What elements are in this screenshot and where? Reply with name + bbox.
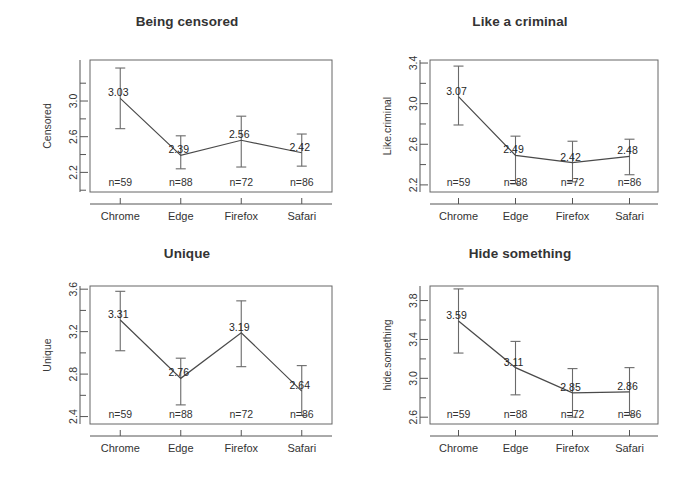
y-axis-label: Like.criminal: [381, 97, 393, 155]
series-line: [459, 321, 630, 393]
plot-box: [430, 286, 658, 424]
y-tick-label: 2.2: [67, 165, 79, 180]
sample-size-label: n=88: [169, 408, 193, 420]
figure-panel-grid: Being censored2.22.63.0ChromeEdgeFirefox…: [0, 0, 688, 486]
series-line: [120, 320, 302, 391]
sample-size-label: n=72: [561, 408, 585, 420]
x-tick-label-firefox: Firefox: [224, 442, 258, 454]
sample-size-label: n=88: [169, 176, 193, 188]
chart-panel-4: Hide something2.63.03.43.8ChromeEdgeFire…: [352, 246, 688, 486]
value-label: 2.76: [169, 366, 190, 378]
plot-box: [90, 60, 332, 192]
value-label: 2.39: [169, 143, 190, 155]
x-tick-label-edge: Edge: [503, 210, 529, 222]
y-tick-label: 2.6: [407, 410, 419, 425]
x-tick-label-safari: Safari: [615, 210, 644, 222]
value-label: 2.42: [560, 151, 581, 163]
plot-area: 2.63.03.43.8ChromeEdgeFirefoxSafarihide.…: [352, 246, 688, 486]
value-label: 2.64: [290, 379, 311, 391]
panel-title: Unique: [22, 246, 352, 261]
y-tick-label: 2.8: [67, 367, 79, 382]
error-bar: [236, 301, 246, 367]
y-tick-label: 2.4: [67, 409, 79, 424]
sample-size-label: n=72: [229, 176, 253, 188]
x-tick-label-safari: Safari: [287, 210, 316, 222]
value-label: 2.86: [617, 380, 638, 392]
sample-size-label: n=59: [447, 408, 471, 420]
x-tick-label-safari: Safari: [615, 442, 644, 454]
chart-panel-3: Unique2.42.83.23.6ChromeEdgeFirefoxSafar…: [22, 246, 352, 486]
x-tick-label-firefox: Firefox: [556, 442, 590, 454]
value-label: 3.59: [446, 309, 467, 321]
sample-size-label: n=72: [229, 408, 253, 420]
plot-area: 2.22.63.0ChromeEdgeFirefoxSafariCensored…: [22, 14, 352, 246]
y-axis-label: Unique: [41, 338, 53, 371]
y-tick-label: 3.0: [67, 94, 79, 109]
y-tick-label: 3.8: [407, 293, 419, 308]
sample-size-label: n=59: [447, 176, 471, 188]
y-tick-label: 3.0: [407, 371, 419, 386]
sample-size-label: n=86: [618, 176, 642, 188]
x-tick-label-chrome: Chrome: [101, 442, 140, 454]
x-tick-label-chrome: Chrome: [101, 210, 140, 222]
sample-size-label: n=86: [290, 408, 314, 420]
value-label: 2.56: [229, 128, 250, 140]
x-tick-label-chrome: Chrome: [439, 210, 478, 222]
panel-title: Like a criminal: [352, 14, 688, 29]
value-label: 3.31: [108, 308, 129, 320]
value-label: 2.85: [560, 381, 581, 393]
x-tick-label-chrome: Chrome: [439, 442, 478, 454]
error-bar: [115, 291, 125, 350]
x-tick-label-safari: Safari: [287, 442, 316, 454]
plot-area: 2.42.83.23.6ChromeEdgeFirefoxSafariUniqu…: [22, 246, 352, 486]
value-label: 3.03: [108, 86, 129, 98]
y-tick-label: 2.6: [67, 129, 79, 144]
chart-panel-2: Like a criminal2.22.63.03.4ChromeEdgeFir…: [352, 14, 688, 246]
value-label: 2.42: [290, 141, 311, 153]
y-tick-label: 3.4: [407, 56, 419, 71]
value-label: 2.49: [503, 143, 524, 155]
plot-area: 2.22.63.03.4ChromeEdgeFirefoxSafariLike.…: [352, 14, 688, 246]
sample-size-label: n=59: [108, 408, 132, 420]
sample-size-label: n=86: [618, 408, 642, 420]
value-label: 3.19: [229, 321, 250, 333]
error-bar: [176, 358, 186, 405]
y-tick-label: 2.2: [407, 177, 419, 192]
y-tick-label: 2.6: [407, 137, 419, 152]
x-tick-label-edge: Edge: [168, 442, 194, 454]
sample-size-label: n=88: [504, 408, 528, 420]
panel-title: Hide something: [352, 246, 688, 261]
series-line: [459, 97, 630, 163]
x-tick-label-edge: Edge: [168, 210, 194, 222]
sample-size-label: n=72: [561, 176, 585, 188]
sample-size-label: n=86: [290, 176, 314, 188]
y-tick-label: 3.4: [407, 332, 419, 347]
x-tick-label-edge: Edge: [503, 442, 529, 454]
chart-panel-1: Being censored2.22.63.0ChromeEdgeFirefox…: [22, 14, 352, 246]
y-tick-label: 3.6: [67, 282, 79, 297]
value-label: 2.48: [617, 144, 638, 156]
y-axis-label: hide.something: [381, 319, 393, 390]
sample-size-label: n=88: [504, 176, 528, 188]
y-axis-label: Censored: [41, 103, 53, 149]
series-line: [120, 98, 302, 155]
value-label: 3.11: [504, 356, 524, 368]
plot-box: [430, 60, 658, 192]
y-tick-label: 3.0: [407, 96, 419, 111]
y-tick-label: 3.2: [67, 324, 79, 339]
x-tick-label-firefox: Firefox: [556, 210, 590, 222]
x-tick-label-firefox: Firefox: [224, 210, 258, 222]
panel-title: Being censored: [22, 14, 352, 29]
value-label: 3.07: [446, 85, 467, 97]
sample-size-label: n=59: [108, 176, 132, 188]
